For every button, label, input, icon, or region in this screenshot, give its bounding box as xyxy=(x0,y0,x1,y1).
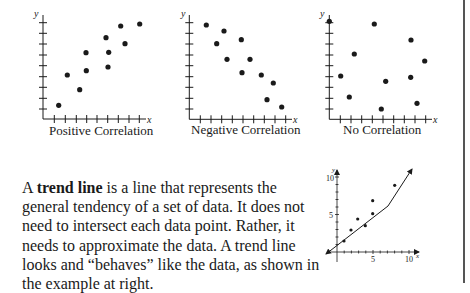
negative-points xyxy=(204,22,285,109)
x-tick-label-5: 5 xyxy=(371,255,375,264)
trend-line-example-chart xyxy=(326,169,419,262)
y-axis-label: y xyxy=(33,8,39,19)
no-correlation-caption: No Correlation xyxy=(343,122,422,137)
x-axis-label: x xyxy=(432,114,438,125)
y-tick-label-5: 5 xyxy=(329,211,333,220)
positive-correlation-caption: Positive Correlation xyxy=(49,123,154,138)
positive-points xyxy=(56,21,142,108)
paragraph-lead: A xyxy=(22,179,37,196)
trend-line-upper xyxy=(388,169,412,206)
trend-line-term: trend line xyxy=(37,179,103,196)
no-correlation-points xyxy=(327,19,428,112)
x-tick-label-10: 10 xyxy=(405,255,413,264)
positive-correlation-chart xyxy=(39,15,146,123)
negative-correlation-caption: Negative Correlation xyxy=(191,122,301,137)
trend-line-definition: A trend line is a line that represents t… xyxy=(22,178,322,293)
trend-example-points xyxy=(342,184,396,243)
y-axis-label: y xyxy=(319,8,325,19)
x-axis-label: x xyxy=(415,252,420,260)
no-correlation-chart xyxy=(325,15,432,123)
trend-line-lower xyxy=(326,206,388,254)
negative-correlation-chart xyxy=(185,15,292,123)
y-axis-label: y xyxy=(180,8,186,19)
right-border-line xyxy=(463,0,465,283)
y-tick-label-10: 10 xyxy=(326,174,334,183)
